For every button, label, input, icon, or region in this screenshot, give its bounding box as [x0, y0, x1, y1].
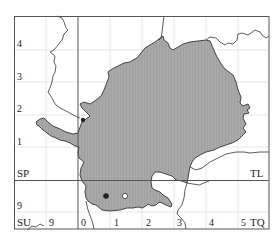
grid-square-su: SU: [17, 217, 31, 228]
y-label-9: 9: [17, 201, 22, 211]
shaded-region: [36, 36, 250, 211]
y-label-1: 1: [17, 137, 22, 147]
x-label-9: 9: [49, 218, 54, 228]
x-label-0: 0: [81, 218, 86, 228]
x-label-5: 5: [241, 218, 246, 228]
distribution-map: [0, 0, 279, 243]
y-label-4: 4: [17, 39, 22, 49]
grid-square-tq: TQ: [250, 217, 265, 228]
record-dot-open: [122, 193, 127, 198]
record-dot-small: [81, 118, 85, 122]
record-dot-filled: [103, 193, 109, 199]
y-label-2: 2: [17, 104, 22, 114]
x-label-4: 4: [209, 218, 214, 228]
grid-square-tl: TL: [250, 168, 263, 179]
x-label-3: 3: [177, 218, 182, 228]
y-label-3: 3: [17, 72, 22, 82]
x-label-2: 2: [146, 218, 151, 228]
x-label-1: 1: [114, 218, 119, 228]
grid-square-sp: SP: [17, 168, 29, 179]
